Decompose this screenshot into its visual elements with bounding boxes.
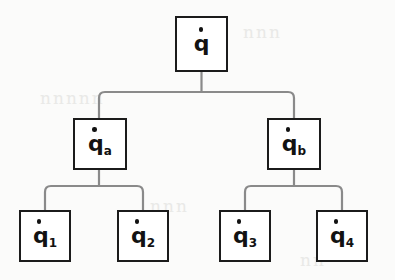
node-q-dot-1[interactable]: q1 <box>19 210 71 262</box>
node-subscript: 3 <box>249 236 257 250</box>
edge-qb-to-q4 <box>294 186 342 210</box>
node-subscript: 4 <box>346 236 354 250</box>
node-base: q <box>88 131 104 156</box>
node-q-dot-3[interactable]: q3 <box>219 210 271 262</box>
edge-qa-to-q2 <box>99 186 143 210</box>
node-base: q <box>330 223 346 248</box>
ghost-text: nnnnn <box>40 88 105 108</box>
derivative-dot-icon <box>237 219 242 224</box>
node-label: qb <box>282 133 306 155</box>
node-label: q <box>194 33 210 55</box>
node-base: q <box>131 223 147 248</box>
derivative-dot-icon <box>135 219 140 224</box>
node-base: q <box>33 223 49 248</box>
derivative-dot-icon <box>92 127 97 132</box>
node-q-dot-a[interactable]: qa <box>73 118 127 170</box>
node-subscript: a <box>104 144 112 158</box>
derivative-dot-icon <box>286 127 291 132</box>
derivative-dot-icon <box>37 219 42 224</box>
node-subscript: 2 <box>147 236 155 250</box>
node-base: q <box>233 223 249 248</box>
edge-q-to-qb <box>202 92 295 118</box>
node-q-dot-b[interactable]: qb <box>267 118 321 170</box>
node-q-dot[interactable]: q <box>175 16 228 72</box>
derivative-dot-icon <box>334 219 339 224</box>
diagram-canvas: nnn nnnnn nnn nn q qa <box>0 0 395 280</box>
node-label: q1 <box>33 225 57 247</box>
node-subscript: b <box>298 144 307 158</box>
node-label: qa <box>88 133 112 155</box>
node-label: q4 <box>330 225 354 247</box>
edge-q-to-qa <box>99 72 202 118</box>
node-label: q2 <box>131 225 155 247</box>
ghost-text: nnn <box>243 22 282 42</box>
edge-qb-to-q3 <box>245 170 294 210</box>
edge-qa-to-q1 <box>45 170 99 210</box>
node-base: q <box>194 31 210 56</box>
node-label: q3 <box>233 225 257 247</box>
derivative-dot-icon <box>199 27 204 32</box>
node-q-dot-4[interactable]: q4 <box>316 210 368 262</box>
node-base: q <box>282 131 298 156</box>
node-q-dot-2[interactable]: q2 <box>117 210 169 262</box>
node-subscript: 1 <box>49 236 57 250</box>
